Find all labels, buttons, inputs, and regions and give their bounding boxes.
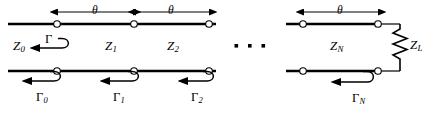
label-z-source: Z0 xyxy=(13,39,25,52)
label-gamma-source: Γ xyxy=(45,33,52,46)
label-gamma-1: Γ1 xyxy=(113,91,125,104)
label-theta-n: θ xyxy=(337,5,343,17)
label-z-load: ZL xyxy=(410,38,422,51)
label-z-1: Z1 xyxy=(105,39,117,52)
ellipsis-dots xyxy=(235,44,266,48)
transmission-line-diagram: θ θ θ Z0 Z1 Z2 ZN ZL Γ Γ0 Γ1 Γ2 ΓN xyxy=(0,0,431,115)
label-z-n: ZN xyxy=(330,39,343,52)
gamma-n-hook-arrow xyxy=(341,72,373,83)
schematic-canvas xyxy=(0,0,431,115)
label-gamma-2: Γ2 xyxy=(191,91,203,104)
label-theta-1: θ xyxy=(92,5,98,17)
label-z-2: Z2 xyxy=(167,39,179,52)
label-theta-2: θ xyxy=(168,5,174,17)
label-gamma-0: Γ0 xyxy=(36,91,48,104)
label-gamma-n: ΓN xyxy=(352,92,365,105)
load-resistor-symbol xyxy=(393,24,407,71)
